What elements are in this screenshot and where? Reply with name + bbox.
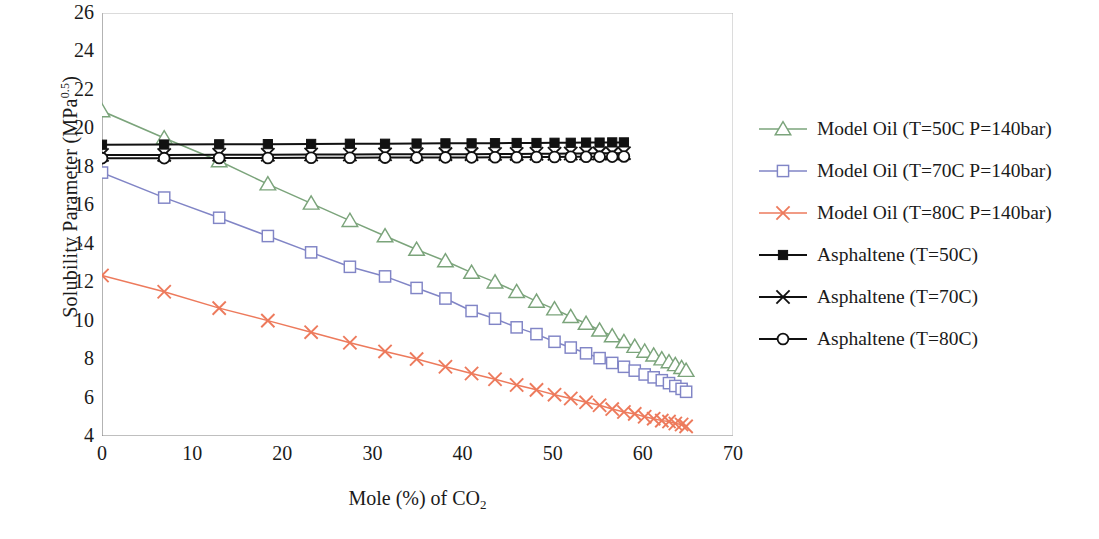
data-point [306, 247, 317, 258]
legend-label: Asphaltene (T=50C) [817, 245, 978, 265]
y-tick-label: 16 [54, 194, 94, 214]
data-point [489, 313, 500, 324]
data-point [102, 153, 107, 164]
data-point [159, 192, 170, 203]
data-point [102, 269, 109, 282]
x-tick-label: 0 [80, 443, 124, 463]
data-point [261, 314, 274, 327]
legend-marker-circle-open-icon [757, 328, 809, 350]
data-point [532, 138, 541, 147]
data-point [306, 152, 317, 163]
data-point [465, 367, 478, 380]
data-point [580, 348, 591, 359]
legend-marker-triangle-icon [757, 118, 809, 140]
data-point [260, 177, 276, 190]
data-point [777, 165, 788, 176]
data-point [410, 352, 423, 365]
legend-item[interactable]: Asphaltene (T=80C) [757, 322, 1099, 356]
data-point [466, 152, 477, 163]
y-tick-label: 24 [54, 40, 94, 60]
series-2 [102, 269, 693, 433]
data-point [377, 229, 393, 242]
data-point [593, 399, 606, 412]
data-point [531, 152, 542, 163]
data-point [548, 388, 561, 401]
data-point [563, 309, 579, 322]
data-point [607, 151, 618, 162]
data-point [215, 140, 224, 149]
data-point [466, 305, 477, 316]
x-tick-label: 10 [170, 443, 214, 463]
legend-marker-square-filled-icon [757, 244, 809, 266]
data-point [303, 196, 319, 209]
series-5 [102, 151, 629, 164]
data-point [778, 334, 789, 345]
y-tick-label: 8 [54, 348, 94, 368]
data-point [579, 396, 592, 409]
legend-label: Model Oil (T=80C P=140bar) [817, 203, 1052, 223]
x-tick-label: 60 [621, 443, 665, 463]
data-point [345, 139, 354, 148]
data-point [102, 104, 110, 117]
data-point [607, 357, 618, 368]
data-point [510, 378, 523, 391]
data-point [411, 152, 422, 163]
data-point [102, 140, 107, 149]
data-point [214, 212, 225, 223]
data-point [566, 138, 575, 147]
data-point [158, 285, 171, 298]
data-point [578, 316, 594, 329]
data-point [581, 151, 592, 162]
figure: Solubility Parameter (MPa0.5) 4681012141… [0, 0, 1099, 539]
x-axis-tick-labels: 010203040506070 [0, 443, 1099, 473]
x-tick-label: 70 [711, 443, 755, 463]
x-axis-title: Mole (%) of CO2 [102, 487, 733, 510]
data-point [342, 213, 358, 226]
data-point [379, 271, 390, 282]
y-tick-label: 22 [54, 79, 94, 99]
data-point [549, 152, 560, 163]
data-point [214, 153, 225, 164]
legend-item[interactable]: Model Oil (T=70C P=140bar) [757, 154, 1099, 188]
data-point [638, 410, 651, 423]
y-axis-tick-labels: 468101214161820222426 [42, 0, 94, 449]
legend-marker-square-open-icon [757, 160, 809, 182]
plot-area [102, 13, 733, 436]
data-point [619, 151, 630, 162]
data-point [606, 402, 619, 415]
legend: Model Oil (T=50C P=140bar)Model Oil (T=7… [757, 112, 1099, 364]
legend-label: Model Oil (T=70C P=140bar) [817, 161, 1052, 181]
data-point [565, 151, 576, 162]
data-point [619, 138, 628, 147]
data-point [344, 261, 355, 272]
data-point [511, 152, 522, 163]
x-tick-label: 50 [531, 443, 575, 463]
data-point [380, 139, 389, 148]
data-point [440, 293, 451, 304]
data-point [344, 152, 355, 163]
legend-label: Model Oil (T=50C P=140bar) [817, 119, 1052, 139]
data-point [531, 328, 542, 339]
legend-item[interactable]: Asphaltene (T=50C) [757, 238, 1099, 272]
x-tick-label: 20 [260, 443, 304, 463]
data-point [509, 284, 525, 297]
x-tick-label: 40 [441, 443, 485, 463]
data-point [438, 254, 454, 267]
data-point [307, 139, 316, 148]
legend-label: Asphaltene (T=70C) [817, 287, 978, 307]
data-point [464, 265, 480, 278]
y-tick-label: 6 [54, 387, 94, 407]
data-point [550, 138, 559, 147]
data-point [511, 322, 522, 333]
data-point [547, 302, 563, 315]
data-point [565, 342, 576, 353]
legend-item[interactable]: Model Oil (T=80C P=140bar) [757, 196, 1099, 230]
y-tick-label: 20 [54, 117, 94, 137]
data-point [262, 153, 273, 164]
legend-label: Asphaltene (T=80C) [817, 329, 978, 349]
x-axis-title-subscript: 2 [480, 497, 487, 512]
data-point [263, 140, 272, 149]
legend-item[interactable]: Model Oil (T=50C P=140bar) [757, 112, 1099, 146]
data-point [512, 138, 521, 147]
legend-item[interactable]: Asphaltene (T=70C) [757, 280, 1099, 314]
